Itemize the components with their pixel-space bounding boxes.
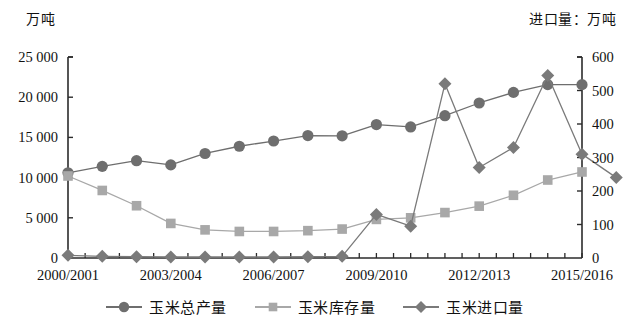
left-axis-tick-label: 25 000: [0, 50, 58, 65]
data-point-circle: [337, 130, 348, 141]
data-point-square: [303, 226, 313, 236]
data-point-circle: [508, 87, 519, 98]
data-point-diamond: [576, 148, 589, 161]
data-point-square: [97, 186, 107, 196]
legend-item-1[interactable]: 玉米总产量: [104, 296, 227, 317]
data-point-square: [268, 302, 277, 311]
data-point-diamond: [233, 250, 246, 263]
x-axis-tick-label: 2012/2013: [448, 268, 510, 283]
series-line: [68, 172, 582, 231]
chart-legend: 玉米总产量玉米库存量玉米进口量: [0, 296, 628, 317]
data-point-circle: [576, 79, 587, 90]
data-point-diamond: [62, 249, 75, 262]
left-axis-tick-label: 20 000: [0, 90, 58, 105]
data-point-circle: [131, 155, 142, 166]
series-line: [68, 85, 582, 173]
data-point-diamond: [267, 250, 280, 263]
right-axis-tick-label: 600: [592, 50, 614, 65]
x-axis-tick-label: 2015/2016: [551, 268, 613, 283]
right-axis-tick-label: 400: [592, 117, 614, 132]
data-point-circle: [439, 110, 450, 121]
data-point-circle: [302, 130, 313, 141]
data-point-circle: [119, 301, 129, 311]
data-point-diamond: [507, 141, 520, 154]
data-point-diamond: [473, 161, 486, 174]
data-point-diamond: [438, 77, 451, 90]
legend-item-3[interactable]: 玉米进口量: [401, 296, 524, 317]
data-point-circle: [199, 148, 210, 159]
legend-marker-circle-icon: [104, 299, 144, 315]
data-point-diamond: [130, 250, 143, 263]
data-point-diamond: [199, 250, 212, 263]
data-point-circle: [165, 159, 176, 170]
left-axis-tick-label: 5 000: [0, 211, 58, 226]
data-point-square: [474, 201, 484, 211]
legend-marker-diamond-icon: [401, 299, 441, 315]
x-axis-tick-label: 2006/2007: [243, 268, 305, 283]
data-point-diamond: [96, 250, 109, 263]
right-axis-tick-label: 100: [592, 217, 614, 232]
data-point-square: [440, 208, 450, 218]
data-point-diamond: [541, 69, 554, 82]
data-point-circle: [268, 135, 279, 146]
chart-container: 万吨 进口量：万吨 玉米总产量玉米库存量玉米进口量 05 00010 00015…: [0, 0, 628, 325]
left-axis-tick-label: 0: [0, 251, 58, 266]
legend-item-2[interactable]: 玉米库存量: [253, 296, 376, 317]
data-point-circle: [97, 161, 108, 172]
data-point-square: [63, 171, 73, 181]
series-1: [62, 79, 587, 178]
data-point-circle: [474, 97, 485, 108]
legend-label: 玉米库存量: [298, 296, 376, 317]
data-point-square: [337, 224, 347, 234]
x-axis-tick-label: 2009/2010: [345, 268, 407, 283]
right-axis-tick-label: 200: [592, 184, 614, 199]
legend-label: 玉米总产量: [149, 296, 227, 317]
data-point-circle: [234, 141, 245, 152]
series-3: [62, 69, 623, 264]
data-point-square: [509, 190, 519, 200]
data-point-square: [543, 175, 553, 185]
data-point-circle: [405, 121, 416, 132]
data-point-square: [200, 225, 210, 235]
right-axis-tick-label: 0: [592, 251, 599, 266]
series-2: [63, 167, 587, 236]
data-point-square: [132, 201, 142, 211]
left-axis-tick-label: 10 000: [0, 170, 58, 185]
x-axis-tick-label: 2003/2004: [140, 268, 202, 283]
data-point-diamond: [164, 250, 177, 263]
data-point-square: [235, 227, 245, 237]
legend-label: 玉米进口量: [446, 296, 524, 317]
x-axis-tick-label: 2000/2001: [37, 268, 99, 283]
right-axis-tick-label: 500: [592, 83, 614, 98]
data-point-diamond: [301, 250, 314, 263]
data-point-square: [577, 167, 587, 177]
data-point-circle: [371, 119, 382, 130]
legend-marker-square-icon: [253, 299, 293, 315]
left-axis-tick-label: 15 000: [0, 130, 58, 145]
right-axis-tick-label: 300: [592, 150, 614, 165]
data-point-square: [166, 219, 176, 229]
data-point-square: [269, 227, 279, 237]
data-point-diamond: [415, 301, 427, 313]
